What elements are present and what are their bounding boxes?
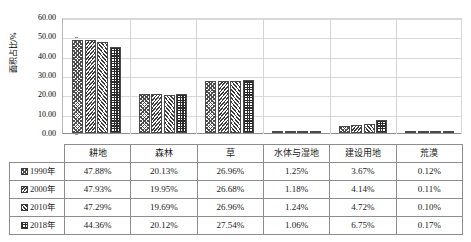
bar <box>351 125 362 133</box>
table-cell-value: 0.12% <box>396 163 462 181</box>
bar-group <box>63 18 130 133</box>
table-body: 1990年47.88%20.13%26.96%1.25%3.67%0.12%20… <box>10 163 463 235</box>
table-cell-value: 19.69% <box>131 199 197 217</box>
bar <box>151 94 162 133</box>
legend-swatch-icon <box>21 168 28 175</box>
bar <box>85 40 96 133</box>
y-tick-label: 60.00 <box>16 14 56 22</box>
y-tick-label: 40.00 <box>16 53 56 61</box>
table-cell-value: 4.14% <box>330 181 396 199</box>
table-header-row: 耕地森林草水体与湿地建设用地荒漠 <box>10 145 463 163</box>
bar <box>243 80 254 133</box>
bar <box>418 131 429 133</box>
bar <box>430 131 441 133</box>
table-cell-value: 4.72% <box>330 199 396 217</box>
table-category-header: 耕地 <box>65 145 131 163</box>
legend-swatch-icon <box>21 222 28 229</box>
table-cell-value: 1.06% <box>263 217 329 235</box>
table-cell-value: 26.68% <box>197 181 263 199</box>
table-category-header: 荒漠 <box>396 145 462 163</box>
y-tick-label: 30.00 <box>16 72 56 80</box>
table-cell-value: 26.96% <box>197 163 263 181</box>
bar <box>272 131 283 133</box>
bar <box>97 42 108 133</box>
bar <box>230 81 241 133</box>
y-tick-label: 10.00 <box>16 111 56 119</box>
table-cell-value: 0.17% <box>396 217 462 235</box>
bar <box>376 120 387 133</box>
table-cell-value: 19.95% <box>131 181 197 199</box>
table-cell-value: 1.18% <box>263 181 329 199</box>
plot-region: 面积占比/% 0.0010.0020.0030.0040.0050.0060.0… <box>0 0 471 152</box>
x-axis-line <box>63 133 461 134</box>
table-category-header: 水体与湿地 <box>263 145 329 163</box>
table-cell-value: 1.24% <box>263 199 329 217</box>
series-name: 2010年 <box>30 202 56 212</box>
y-axis-tick-labels: 0.0010.0020.0030.0040.0050.0060.00 <box>16 12 56 140</box>
bar <box>176 94 187 133</box>
table-category-header: 建设用地 <box>330 145 396 163</box>
table-cell-value: 20.13% <box>131 163 197 181</box>
y-tick-label: 50.00 <box>16 33 56 41</box>
table-category-header: 草 <box>197 145 263 163</box>
table-series-label: 2018年 <box>10 217 65 235</box>
y-tick-label: 0.00 <box>16 130 56 138</box>
series-name: 2000年 <box>30 184 56 194</box>
legend-swatch-icon <box>21 186 28 193</box>
table-cell-value: 47.93% <box>65 181 131 199</box>
bar <box>139 94 150 133</box>
bar <box>310 131 321 133</box>
table-row: 1990年47.88%20.13%26.96%1.25%3.67%0.12% <box>10 163 463 181</box>
bar <box>339 126 350 133</box>
bar <box>110 47 121 133</box>
table-cell-value: 0.11% <box>396 181 462 199</box>
table-corner-cell <box>10 145 65 163</box>
table-cell-value: 27.54% <box>197 217 263 235</box>
bar <box>164 95 175 133</box>
table-series-label: 1990年 <box>10 163 65 181</box>
data-table: 耕地森林草水体与湿地建设用地荒漠 1990年47.88%20.13%26.96%… <box>9 144 463 235</box>
table-category-header: 森林 <box>131 145 197 163</box>
bar-group <box>396 18 463 133</box>
table-series-label: 2000年 <box>10 181 65 199</box>
bar <box>443 131 454 133</box>
bar <box>297 131 308 133</box>
table-cell-value: 44.36% <box>65 217 131 235</box>
chart-figure: 面积占比/% 0.0010.0020.0030.0040.0050.0060.0… <box>0 0 471 242</box>
table-cell-value: 3.67% <box>330 163 396 181</box>
bar-group <box>130 18 197 133</box>
bar <box>205 81 216 133</box>
bar <box>285 131 296 133</box>
table-row: 2000年47.93%19.95%26.68%1.18%4.14%0.11% <box>10 181 463 199</box>
bar <box>364 124 375 133</box>
bar <box>218 81 229 133</box>
legend-swatch-icon <box>21 204 28 211</box>
y-tick-label: 20.00 <box>16 91 56 99</box>
bar-group <box>330 18 397 133</box>
bar-group <box>263 18 330 133</box>
table-cell-value: 47.88% <box>65 163 131 181</box>
bar <box>72 40 83 133</box>
series-name: 2018年 <box>30 220 56 230</box>
plot-area <box>62 18 462 134</box>
table-row: 2010年47.29%19.69%26.96%1.24%4.72%0.10% <box>10 199 463 217</box>
bar <box>405 131 416 133</box>
table-cell-value: 1.25% <box>263 163 329 181</box>
bar-group <box>196 18 263 133</box>
table-cell-value: 47.29% <box>65 199 131 217</box>
table-cell-value: 20.12% <box>131 217 197 235</box>
table-cell-value: 26.96% <box>197 199 263 217</box>
table-cell-value: 0.10% <box>396 199 462 217</box>
table-row: 2018年44.36%20.12%27.54%1.06%6.75%0.17% <box>10 217 463 235</box>
table-series-label: 2010年 <box>10 199 65 217</box>
series-name: 1990年 <box>30 166 56 176</box>
table-cell-value: 6.75% <box>330 217 396 235</box>
